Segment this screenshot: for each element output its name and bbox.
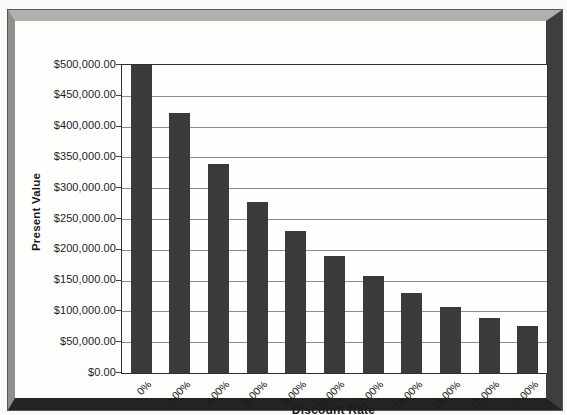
plot-area: [121, 64, 548, 374]
bar-14.00%: [401, 293, 422, 373]
y-axis-tick-label: $350,000.00: [29, 150, 116, 163]
scanned-chart-figure: Present Value $500,000.00$450,000.00$400…: [0, 0, 567, 415]
y-axis-tick-label: $150,000.00: [29, 273, 116, 286]
bar-20.00%: [517, 326, 538, 373]
bar-12.00%: [363, 276, 384, 373]
y-axis-tick: [116, 187, 121, 188]
y-axis-tick-label: $450,000.00: [29, 88, 116, 101]
y-axis-tick: [116, 95, 121, 96]
y-axis-tick-label: $100,000.00: [29, 304, 116, 317]
gridline: [122, 96, 547, 97]
bar-10.00%: [324, 256, 345, 373]
x-axis-title: Discount Rate: [121, 403, 546, 415]
y-axis-tick: [116, 341, 121, 342]
bar-18.00%: [479, 318, 500, 373]
y-axis-tick: [116, 280, 121, 281]
y-axis-tick-label: $0.00: [29, 366, 116, 379]
y-axis-tick-label: $200,000.00: [29, 242, 116, 255]
y-axis-tick-label: $500,000.00: [29, 58, 116, 71]
bar-0%: [131, 65, 152, 373]
bar-6.00%: [247, 202, 268, 373]
y-axis-tick-labels: $500,000.00$450,000.00$400,000.00$350,00…: [29, 64, 116, 372]
y-axis-tick: [116, 218, 121, 219]
bar-16.00%: [440, 307, 461, 373]
y-axis-tick: [116, 156, 121, 157]
y-axis-tick: [116, 64, 121, 65]
figure-frame: Present Value $500,000.00$450,000.00$400…: [8, 10, 562, 410]
bar-8.00%: [285, 231, 306, 373]
bar-2.00%: [169, 113, 190, 373]
y-axis-tick-label: $50,000.00: [29, 335, 116, 348]
y-axis-tick-label: $400,000.00: [29, 119, 116, 132]
bar-4.00%: [208, 164, 229, 373]
y-axis-tick: [116, 310, 121, 311]
y-axis-tick-label: $250,000.00: [29, 212, 116, 225]
y-axis-tick: [116, 249, 121, 250]
y-axis-tick-label: $300,000.00: [29, 181, 116, 194]
y-axis-tick: [116, 126, 121, 127]
y-axis-tick: [116, 372, 121, 373]
